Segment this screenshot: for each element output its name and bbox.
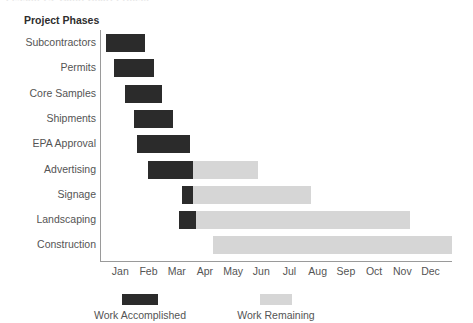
bar-accomplished-signage [182, 186, 193, 204]
category-label-construction: Construction [0, 239, 96, 250]
x-tick-apr: Apr [197, 265, 213, 277]
x-tick-jul: Jul [283, 265, 296, 277]
bar-accomplished-subcontractors [106, 34, 145, 52]
category-label-signage: Signage [0, 189, 96, 200]
y-axis-line [100, 30, 101, 262]
legend-label-work-accomplished: Work Accomplished [94, 309, 186, 321]
x-tick-jun: Jun [253, 265, 270, 277]
gantt-chart: Project Phases SubcontractorsPermitsCore… [0, 0, 473, 323]
category-label-epa-approval: EPA Approval [0, 138, 96, 149]
x-tick-jan: Jan [112, 265, 129, 277]
bar-accomplished-permits [114, 59, 153, 77]
x-tick-aug: Aug [308, 265, 327, 277]
bar-accomplished-advertising [148, 161, 193, 179]
bar-remaining-advertising [193, 161, 258, 179]
legend-swatch-work-accomplished [122, 294, 158, 305]
bar-remaining-construction [213, 236, 453, 254]
bar-accomplished-core-samples [125, 85, 162, 103]
x-tick-dec: Dec [421, 265, 440, 277]
bar-accomplished-epa-approval [137, 135, 191, 153]
x-tick-mar: Mar [168, 265, 186, 277]
bar-remaining-signage [193, 186, 311, 204]
category-label-shipments: Shipments [0, 113, 96, 124]
legend-label-work-remaining: Work Remaining [237, 309, 314, 321]
category-label-core-samples: Core Samples [0, 88, 96, 99]
legend-swatch-work-remaining [260, 294, 292, 305]
x-tick-feb: Feb [139, 265, 157, 277]
category-label-permits: Permits [0, 62, 96, 73]
x-axis-line [100, 261, 452, 262]
category-label-subcontractors: Subcontractors [0, 37, 96, 48]
y-axis-heading: Project Phases [0, 14, 96, 26]
category-label-advertising: Advertising [0, 164, 96, 175]
bar-accomplished-landscaping [179, 211, 196, 229]
x-tick-oct: Oct [366, 265, 382, 277]
category-label-landscaping: Landscaping [0, 214, 96, 225]
bar-remaining-landscaping [196, 211, 410, 229]
x-tick-nov: Nov [393, 265, 412, 277]
bar-accomplished-shipments [134, 110, 173, 128]
x-tick-sep: Sep [337, 265, 356, 277]
x-tick-may: May [223, 265, 243, 277]
